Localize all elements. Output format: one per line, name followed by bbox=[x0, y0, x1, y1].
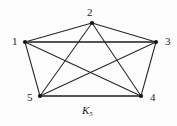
graph-vertex-2 bbox=[90, 21, 94, 25]
vertex-label-5: 5 bbox=[27, 92, 33, 103]
graph-edge-1-5 bbox=[25, 42, 40, 96]
vertices-group bbox=[23, 21, 158, 98]
edges-group bbox=[25, 23, 156, 96]
graph-edge-2-3 bbox=[92, 23, 156, 42]
vertex-label-2: 2 bbox=[87, 7, 93, 18]
graph-vertex-4 bbox=[139, 94, 143, 98]
graph-edge-1-4 bbox=[25, 42, 141, 96]
graph-vertex-3 bbox=[154, 40, 158, 44]
graph-vertex-5 bbox=[38, 94, 42, 98]
vertex-label-1: 1 bbox=[12, 36, 18, 47]
vertex-label-3: 3 bbox=[165, 36, 171, 47]
vertex-label-4: 4 bbox=[150, 92, 156, 103]
k5-graph-figure: 12345 K5 bbox=[0, 0, 177, 126]
graph-edge-1-2 bbox=[25, 23, 92, 42]
graph-edge-2-5 bbox=[40, 23, 92, 96]
graph-vertex-1 bbox=[23, 40, 27, 44]
caption-subscript: 5 bbox=[89, 110, 93, 118]
graph-edge-3-5 bbox=[40, 42, 156, 96]
graph-edge-3-4 bbox=[141, 42, 156, 96]
figure-caption: K5 bbox=[82, 105, 93, 118]
